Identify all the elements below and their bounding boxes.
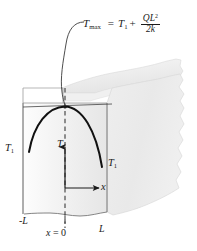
equals-sign: =: [108, 18, 114, 29]
figure-drawing: [0, 0, 197, 251]
plus-sign: +: [130, 18, 136, 29]
x-zero-label: x = 0: [46, 228, 66, 238]
slab-side-face: [107, 74, 184, 215]
t1-left-label: T1: [5, 143, 14, 154]
tmax-symbol: Tmax: [83, 18, 101, 31]
parabola-peak-marker: [63, 105, 66, 108]
neg-l-label: -L: [19, 216, 28, 226]
t1-term: T1: [118, 18, 128, 31]
tmax-formula: Tmax = T1 + QL2 2k: [83, 13, 160, 35]
t1-right-label: T1: [108, 158, 117, 169]
x-axis-label: x: [101, 182, 106, 193]
t-axis-label: T: [57, 139, 63, 150]
fraction-denominator: 2k: [144, 25, 157, 35]
fraction-numerator: QL2: [141, 13, 160, 24]
thermal-slab-figure: Tmax = T1 + QL2 2k T1 T1 T x -L x = 0 L: [0, 0, 197, 251]
ql2-over-2k-fraction: QL2 2k: [141, 13, 160, 35]
pos-l-label: L: [99, 224, 105, 234]
upper-reference-band: [23, 88, 63, 103]
